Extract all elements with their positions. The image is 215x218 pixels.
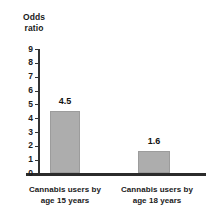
y-tick-label-6: 6: [17, 86, 33, 95]
y-tick-mark-4: [35, 118, 38, 119]
x-category-label-1-line-2: age 18 years: [110, 195, 204, 206]
y-tick-label-0: 0: [17, 169, 33, 178]
y-tick-label-8: 8: [17, 58, 33, 67]
y-tick-label-9: 9: [17, 45, 33, 54]
chart-figure: Odds ratio 9 8 7 6 5 4 3 2 1 0 4.5 1.6: [0, 0, 215, 218]
y-tick-mark-8: [35, 63, 38, 64]
y-tick-mark-5: [35, 104, 38, 105]
y-tick-mark-6: [35, 91, 38, 92]
y-tick-label-3: 3: [17, 128, 33, 137]
y-tick-label-1: 1: [17, 155, 33, 164]
y-tick-label-5: 5: [17, 100, 33, 109]
y-tick-mark-7: [35, 77, 38, 78]
x-category-label-0-line-1: Cannabis users by: [18, 184, 112, 195]
bar-value-label-0: 4.5: [45, 96, 85, 106]
x-category-label-1-line-1: Cannabis users by: [110, 184, 204, 195]
y-axis-line: [38, 49, 40, 174]
y-tick-mark-2: [35, 146, 38, 147]
y-tick-mark-1: [35, 160, 38, 161]
y-tick-mark-9: [35, 49, 38, 50]
bar-cannabis-users-age-15: [50, 111, 80, 173]
y-tick-label-7: 7: [17, 72, 33, 81]
x-axis-baseline: [26, 173, 206, 176]
bar-cannabis-users-age-18: [138, 151, 170, 173]
plot-area: 9 8 7 6 5 4 3 2 1 0 4.5 1.6 Cannabis use…: [0, 0, 215, 218]
y-tick-label-4: 4: [17, 114, 33, 123]
x-category-label-1: Cannabis users by age 18 years: [110, 184, 204, 206]
y-tick-label-2: 2: [17, 141, 33, 150]
x-category-label-0: Cannabis users by age 15 years: [18, 184, 112, 206]
y-tick-mark-3: [35, 132, 38, 133]
x-category-label-0-line-2: age 15 years: [18, 195, 112, 206]
bar-value-label-1: 1.6: [134, 136, 174, 146]
